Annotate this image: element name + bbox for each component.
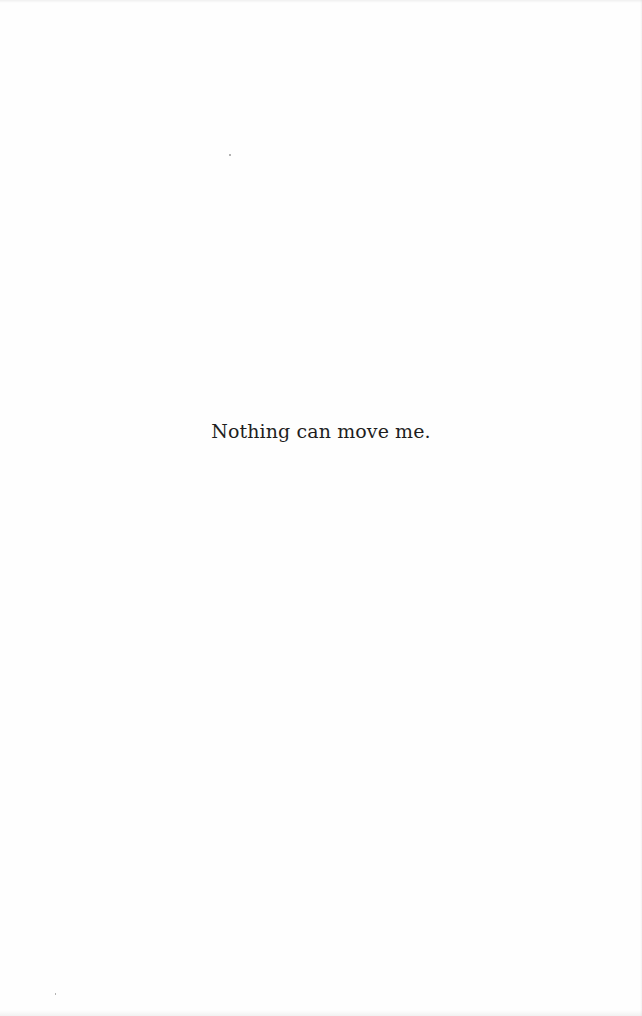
scan-edge-bottom: [0, 1010, 642, 1016]
page-text: Nothing can move me.: [0, 420, 642, 442]
scan-speck: [55, 993, 56, 995]
book-page: Nothing can move me.: [0, 0, 642, 1016]
scan-edge-top: [0, 0, 642, 3]
scan-speck: [229, 154, 231, 156]
